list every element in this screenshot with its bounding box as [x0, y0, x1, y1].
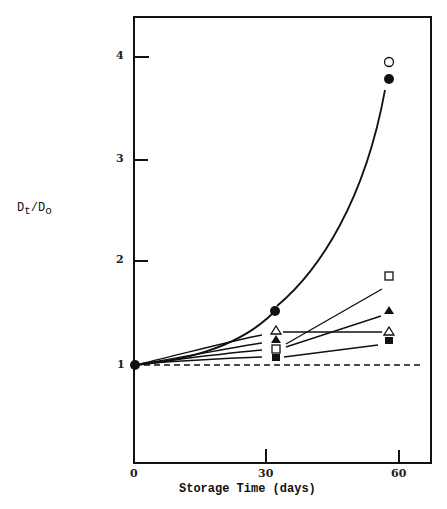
y-tick-label-1: 1 — [117, 358, 125, 371]
y-label-slash-d: /D — [31, 201, 45, 215]
filled-triangle-marker — [384, 306, 394, 314]
open-triangle-marker — [271, 326, 281, 334]
plot-frame — [134, 17, 431, 463]
y-tick-label-4: 4 — [116, 49, 124, 62]
y-ticks — [134, 57, 149, 261]
y-tick-label-3: 3 — [116, 152, 124, 165]
x-tick-label-0: 0 — [130, 467, 138, 480]
y-axis-label: Dt/Do — [17, 201, 52, 217]
filled-circle-marker — [270, 306, 280, 316]
x-tick-label-60: 60 — [391, 467, 406, 480]
open-square-marker — [272, 345, 280, 353]
filled-square-line — [140, 345, 378, 364]
open-circle-marker — [385, 58, 394, 67]
chart-plot — [0, 0, 447, 509]
filled-circle-marker — [130, 360, 140, 370]
filled-circle-marker — [384, 74, 394, 84]
open-square-marker — [385, 272, 393, 280]
filled-square-marker — [385, 337, 393, 344]
filled-square-marker — [272, 354, 280, 361]
filled-triangle-marker — [271, 335, 281, 343]
x-tick-label-30: 30 — [258, 467, 273, 480]
y-label-sub-o: o — [45, 205, 52, 217]
open-triangle-marker — [384, 327, 394, 335]
y-label-sub-t: t — [24, 205, 31, 217]
open-square-line — [140, 289, 382, 364]
x-axis-label: Storage Time (days) — [179, 482, 316, 496]
x-ticks — [266, 449, 399, 463]
filled-circle-curve — [136, 90, 385, 365]
y-tick-label-2: 2 — [116, 253, 124, 266]
